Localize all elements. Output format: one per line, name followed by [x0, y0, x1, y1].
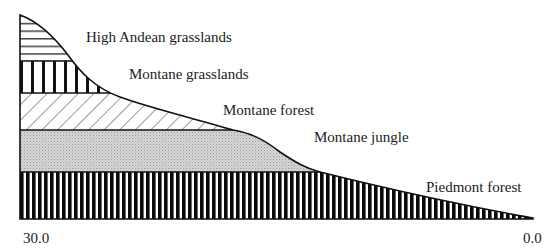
axis-right-label: 0.0 — [523, 230, 542, 246]
vegetation-profile-diagram: High Andean grasslands Montane grassland… — [0, 0, 560, 249]
label-montane-forest: Montane forest — [223, 102, 315, 118]
label-montane-jungle: Montane jungle — [314, 129, 409, 145]
zone-montane-grasslands — [20, 61, 540, 93]
axis-left-label: 30.0 — [23, 230, 49, 246]
label-montane-grasslands: Montane grasslands — [129, 66, 249, 82]
label-piedmont-forest: Piedmont forest — [426, 179, 522, 195]
label-high-andean-grasslands: High Andean grasslands — [86, 29, 232, 45]
